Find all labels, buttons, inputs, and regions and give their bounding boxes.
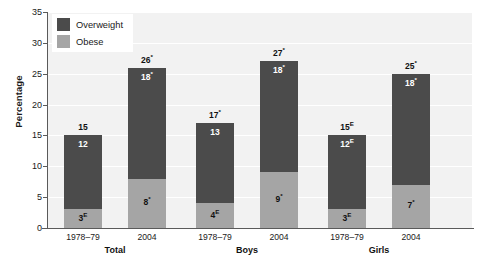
x-axis-tick-label: 2004 <box>376 232 446 242</box>
y-axis-tick-mark <box>43 166 47 167</box>
bar-label-total: 25* <box>386 62 436 71</box>
bar-label-obese: 3E <box>64 214 102 223</box>
y-axis-tick-mark <box>43 12 47 13</box>
y-axis-tick-label: 20 <box>8 100 42 110</box>
y-axis-tick-mark <box>43 135 47 136</box>
bar-stack[interactable]: 123E15 <box>64 135 102 228</box>
legend-item-overweight: Overweight <box>57 18 123 31</box>
x-axis-group-label: Boys <box>187 245 307 255</box>
bar-segment-overweight[interactable]: 18* <box>260 61 298 172</box>
x-axis-group-label: Girls <box>319 245 439 255</box>
bar-stack[interactable]: 18*8*26* <box>128 68 166 228</box>
y-axis-tick-mark <box>43 197 47 198</box>
x-axis-tick-label: 2004 <box>244 232 314 242</box>
x-axis-tick-label: 1978–79 <box>48 232 118 242</box>
bar-segment-obese[interactable]: 4E <box>196 203 234 228</box>
bar-segment-overweight[interactable]: 12 <box>64 135 102 209</box>
bar-segment-obese[interactable]: 9* <box>260 172 298 228</box>
bar-label-overweight: 12 <box>64 140 102 149</box>
bar-segment-overweight[interactable]: 12E <box>328 135 366 209</box>
bar-label-obese: 9* <box>260 195 298 204</box>
legend-swatch-obese <box>57 35 70 48</box>
y-axis-tick-label: 30 <box>8 38 42 48</box>
bar-label-obese: 4E <box>196 211 234 220</box>
y-axis-line <box>47 12 48 229</box>
bar-label-obese: 8* <box>128 198 166 207</box>
bar-label-total: 26* <box>122 56 172 65</box>
bar-segment-obese[interactable]: 3E <box>64 209 102 228</box>
chart-legend: Overweight Obese <box>52 14 133 52</box>
stacked-bar-chart: Percentage 05101520253035 123E1518*8*26*… <box>0 0 479 267</box>
x-axis-tick-label: 1978–79 <box>180 232 250 242</box>
bar-label-total: 15 <box>58 123 108 132</box>
bar-segment-overweight[interactable]: 18* <box>128 68 166 179</box>
legend-item-obese: Obese <box>57 35 123 48</box>
bar-label-overweight: 12E <box>328 140 366 149</box>
y-axis-tick-label: 0 <box>8 223 42 233</box>
y-axis-tick-labels: 05101520253035 <box>0 0 42 267</box>
y-axis-tick-label: 25 <box>8 69 42 79</box>
bar-label-obese: 7* <box>392 201 430 210</box>
bar-label-obese: 3E <box>328 214 366 223</box>
bar-label-total: 15E <box>322 123 372 132</box>
bar-segment-obese[interactable]: 3E <box>328 209 366 228</box>
y-axis-tick-mark <box>43 228 47 229</box>
bar-stack[interactable]: 18*9*27* <box>260 61 298 228</box>
y-axis-tick-label: 5 <box>8 192 42 202</box>
y-axis-tick-label: 15 <box>8 130 42 140</box>
legend-swatch-overweight <box>57 18 70 31</box>
bar-stack[interactable]: 134E17* <box>196 123 234 228</box>
bar-label-overweight: 18* <box>392 79 430 88</box>
legend-label-overweight: Overweight <box>76 20 123 30</box>
bar-label-total: 17* <box>190 111 240 120</box>
bar-stack[interactable]: 12E3E15E <box>328 135 366 228</box>
y-axis-tick-mark <box>43 74 47 75</box>
legend-label-obese: Obese <box>76 37 103 47</box>
bar-segment-overweight[interactable]: 13 <box>196 123 234 203</box>
y-axis-tick-label: 10 <box>8 161 42 171</box>
bar-segment-overweight[interactable]: 18* <box>392 74 430 185</box>
x-axis-tick-label: 1978–79 <box>312 232 382 242</box>
gridline <box>48 12 472 13</box>
bar-label-overweight: 13 <box>196 128 234 137</box>
x-axis-tick-label: 2004 <box>112 232 182 242</box>
bar-label-overweight: 18* <box>128 73 166 82</box>
bar-segment-obese[interactable]: 8* <box>128 179 166 228</box>
y-axis-tick-label: 35 <box>8 7 42 17</box>
bar-label-overweight: 18* <box>260 66 298 75</box>
y-axis-tick-mark <box>43 43 47 44</box>
x-axis-group-label: Total <box>55 245 175 255</box>
bar-stack[interactable]: 18*7*25* <box>392 74 430 228</box>
bar-label-total: 27* <box>254 49 304 58</box>
bar-segment-obese[interactable]: 7* <box>392 185 430 228</box>
x-axis-line <box>42 228 474 229</box>
y-axis-tick-mark <box>43 105 47 106</box>
